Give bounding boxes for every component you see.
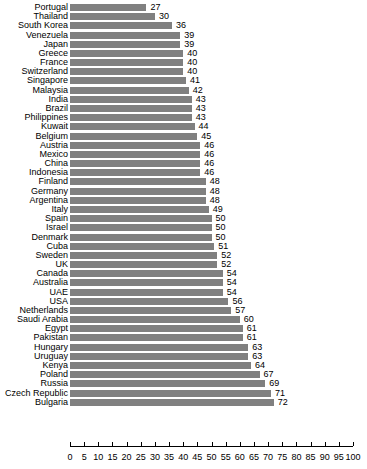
x-axis-line (70, 446, 353, 447)
bar (70, 252, 217, 259)
x-tick (254, 442, 255, 446)
bar (70, 371, 260, 378)
x-tick-label: 100 (338, 452, 367, 463)
x-tick (70, 442, 71, 446)
bar (70, 316, 240, 323)
bar (70, 234, 212, 241)
bar (70, 96, 192, 103)
bar (70, 380, 265, 387)
bar (70, 261, 217, 268)
x-tick (282, 442, 283, 446)
bar (70, 178, 206, 185)
x-tick (353, 442, 354, 446)
x-tick (127, 442, 128, 446)
x-tick (325, 442, 326, 446)
x-tick (226, 442, 227, 446)
bar (70, 188, 206, 195)
bar (70, 197, 206, 204)
bar (70, 289, 223, 296)
x-tick (98, 442, 99, 446)
bar-value-label: 72 (278, 397, 288, 408)
bar (70, 279, 223, 286)
bar (70, 215, 212, 222)
x-tick (84, 442, 85, 446)
x-tick (268, 442, 269, 446)
bar (70, 151, 200, 158)
bar (70, 4, 146, 11)
x-tick (212, 442, 213, 446)
x-tick (240, 442, 241, 446)
bar (70, 59, 183, 66)
x-tick (183, 442, 184, 446)
x-tick (197, 442, 198, 446)
bar (70, 344, 248, 351)
x-tick (141, 442, 142, 446)
bar (70, 133, 197, 140)
x-tick (311, 442, 312, 446)
bar (70, 243, 214, 250)
bar (70, 169, 200, 176)
bar (70, 390, 271, 397)
bar (70, 22, 172, 29)
bar (70, 298, 228, 305)
x-tick (112, 442, 113, 446)
bar (70, 307, 231, 314)
bar-chart: Portugal27Thailand30South Korea36Venezue… (0, 0, 367, 469)
bar (70, 142, 200, 149)
bar (70, 13, 155, 20)
category-label: Bulgaria (0, 397, 68, 408)
bar (70, 123, 195, 130)
bar (70, 270, 223, 277)
bar (70, 41, 180, 48)
bar (70, 87, 189, 94)
bar (70, 353, 248, 360)
bar (70, 77, 186, 84)
x-tick (169, 442, 170, 446)
x-tick (339, 442, 340, 446)
bar (70, 325, 243, 332)
bar-value-label: 30 (159, 11, 169, 22)
bar (70, 206, 209, 213)
bar (70, 399, 274, 406)
plot-area: Portugal27Thailand30South Korea36Venezue… (0, 0, 367, 469)
bar (70, 32, 180, 39)
bar (70, 160, 200, 167)
bar (70, 224, 212, 231)
bar (70, 114, 192, 121)
bar-row: Bulgaria72 (0, 399, 367, 408)
x-tick (296, 442, 297, 446)
bar (70, 334, 243, 341)
bar (70, 105, 192, 112)
bar (70, 68, 183, 75)
bar (70, 50, 183, 57)
bar (70, 362, 251, 369)
x-tick (155, 442, 156, 446)
